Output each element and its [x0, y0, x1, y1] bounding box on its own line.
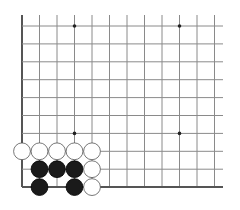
- grid-lines: [22, 15, 223, 187]
- go-board[interactable]: [0, 0, 240, 210]
- black-stone: [31, 161, 48, 178]
- star-point-icon: [73, 132, 77, 136]
- black-stone: [31, 179, 48, 196]
- star-point-icon: [178, 132, 182, 136]
- white-stone: [66, 143, 83, 160]
- black-stone: [66, 179, 83, 196]
- black-stone: [66, 161, 83, 178]
- star-point-icon: [178, 24, 182, 28]
- white-stone: [49, 143, 66, 160]
- white-stone: [84, 179, 101, 196]
- star-point-icon: [73, 24, 77, 28]
- white-stone: [84, 161, 101, 178]
- black-stone: [49, 161, 66, 178]
- white-stone: [31, 143, 48, 160]
- white-stone: [14, 143, 31, 160]
- white-stone: [84, 143, 101, 160]
